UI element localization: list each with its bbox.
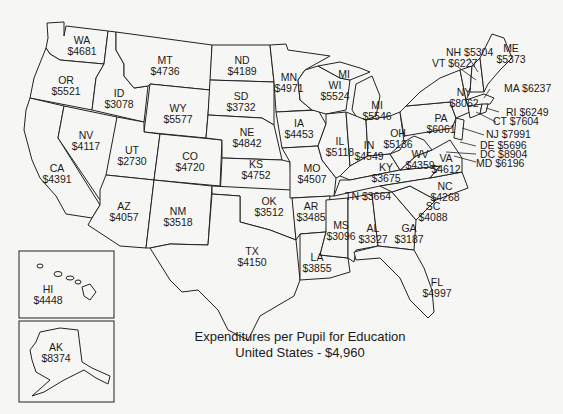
label-sd-value: $3732	[226, 101, 255, 113]
label-ok-value: $3512	[254, 206, 283, 218]
map-title: Expenditures per Pupil for Education Uni…	[180, 329, 420, 361]
title-line-2: United States - $4,960	[180, 345, 420, 361]
label-ia-value: $4453	[284, 128, 313, 140]
label-nc-value: $4268	[430, 191, 459, 203]
label-wy-value: $5577	[163, 113, 192, 125]
label-ut-value: $2730	[117, 155, 146, 167]
label-ca-value: $4391	[42, 173, 71, 185]
label-ks-value: $4752	[241, 169, 270, 181]
label-ar-value: $3485	[296, 211, 325, 223]
label-al-value: $3327	[358, 233, 387, 245]
label-mi-upper-abbr: MI	[338, 68, 350, 80]
label-or-value: $5521	[51, 85, 80, 97]
label-co-value: $4720	[175, 161, 204, 173]
label-wa-value: $4681	[67, 45, 96, 57]
label-mo-value: $4507	[297, 173, 326, 185]
label-az-value: $4057	[109, 211, 138, 223]
label-mt-value: $4736	[150, 65, 179, 77]
label-nv-value: $4117	[72, 140, 101, 152]
label-me-value: $5373	[496, 53, 525, 65]
label-mi-value: $5546	[362, 110, 391, 122]
label-hi-value: $4448	[33, 294, 62, 306]
state-fl[interactable]	[354, 246, 434, 318]
label-ms-value: $3096	[326, 230, 355, 242]
label-wv-value: $4359	[405, 159, 434, 171]
label-oh-value: $5136	[383, 138, 412, 150]
label-tn: TN $3664	[345, 190, 391, 202]
label-sc-value: $4088	[418, 211, 447, 223]
label-ne-value: $4842	[232, 137, 261, 149]
label-ct: CT $7604	[493, 115, 539, 127]
state-ri[interactable]	[480, 104, 488, 114]
label-ma: MA $6237	[504, 82, 551, 94]
label-ny-value: $8062	[449, 97, 478, 109]
label-va-value: $4612	[431, 163, 460, 175]
title-line-1: Expenditures per Pupil for Education	[180, 329, 420, 345]
label-ga-value: $3187	[394, 233, 423, 245]
label-pa-value: $6061	[426, 123, 455, 135]
label-nm-value: $3518	[163, 216, 192, 228]
label-ak-value: $8374	[41, 352, 70, 364]
label-fl-value: $4997	[422, 287, 451, 299]
label-il-value: $5118	[326, 146, 355, 158]
label-nd-value: $4189	[227, 65, 256, 77]
label-tx-value: $4150	[237, 256, 266, 268]
hawaii-inset-box	[19, 251, 114, 318]
label-mn-value: $4971	[274, 82, 303, 94]
label-vt: VT $6227	[432, 57, 478, 69]
label-md: MD $6196	[476, 157, 525, 169]
label-la-value: $3855	[302, 262, 331, 274]
label-id-value: $3078	[104, 98, 133, 110]
label-wi-value: $5524	[320, 90, 349, 102]
label-ky-value: $3675	[371, 172, 400, 184]
